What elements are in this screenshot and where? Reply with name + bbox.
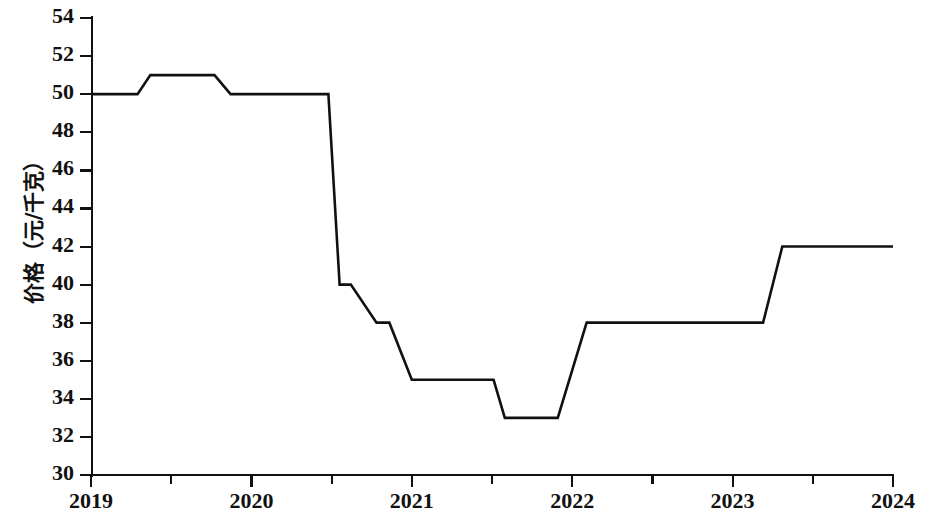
y-tick-label-text: 30 — [52, 460, 74, 486]
x-tick-label-2022: 2022 — [550, 488, 594, 514]
x-tick-label-2021: 2021 — [390, 488, 434, 514]
x-tick-2019 — [90, 476, 92, 487]
y-axis-line — [91, 16, 93, 477]
y-tick-label-text: 52 — [52, 41, 74, 67]
y-tick-40 — [80, 284, 91, 286]
y-tick-label-text: 40 — [52, 270, 74, 296]
y-tick-42 — [80, 246, 91, 248]
y-tick-46 — [80, 169, 91, 171]
x-tick-label-2023: 2023 — [711, 488, 755, 514]
x-tick-label-2020: 2020 — [229, 488, 273, 514]
y-tick-label-text: 34 — [52, 384, 74, 410]
y-tick-52 — [80, 55, 91, 57]
y-tick-label-text: 50 — [52, 79, 74, 105]
y-tick-50 — [80, 93, 91, 95]
x-minor-tick — [812, 476, 814, 484]
y-tick-32 — [80, 436, 91, 438]
y-tick-label-text: 36 — [52, 346, 74, 372]
y-tick-label-text: 38 — [52, 308, 74, 334]
y-tick-44 — [80, 207, 91, 209]
series-line-0 — [91, 75, 893, 418]
y-tick-label-text: 54 — [52, 3, 74, 29]
y-tick-label-text: 32 — [52, 422, 74, 448]
x-minor-tick — [331, 476, 333, 484]
x-tick-2020 — [250, 476, 252, 487]
x-tick-2021 — [411, 476, 413, 487]
x-tick-2024 — [892, 476, 894, 487]
price-line-chart: 价格（元/千克） 30323436384042444648505254 2019… — [0, 0, 928, 516]
x-tick-2022 — [571, 476, 573, 487]
x-minor-tick — [170, 476, 172, 484]
y-tick-label-text: 42 — [52, 232, 74, 258]
data-series-layer — [0, 0, 928, 516]
x-minor-tick — [651, 476, 653, 484]
y-axis-title: 价格（元/千克） — [17, 102, 47, 352]
x-tick-label-2024: 2024 — [871, 488, 915, 514]
y-tick-36 — [80, 360, 91, 362]
y-tick-38 — [80, 322, 91, 324]
x-minor-tick — [491, 476, 493, 484]
y-tick-54 — [80, 17, 91, 19]
y-tick-label-text: 48 — [52, 117, 74, 143]
y-tick-label-text: 46 — [52, 155, 74, 181]
x-tick-label-2019: 2019 — [69, 488, 113, 514]
y-tick-48 — [80, 131, 91, 133]
x-tick-2023 — [732, 476, 734, 487]
y-tick-34 — [80, 398, 91, 400]
y-tick-label-text: 44 — [52, 193, 74, 219]
